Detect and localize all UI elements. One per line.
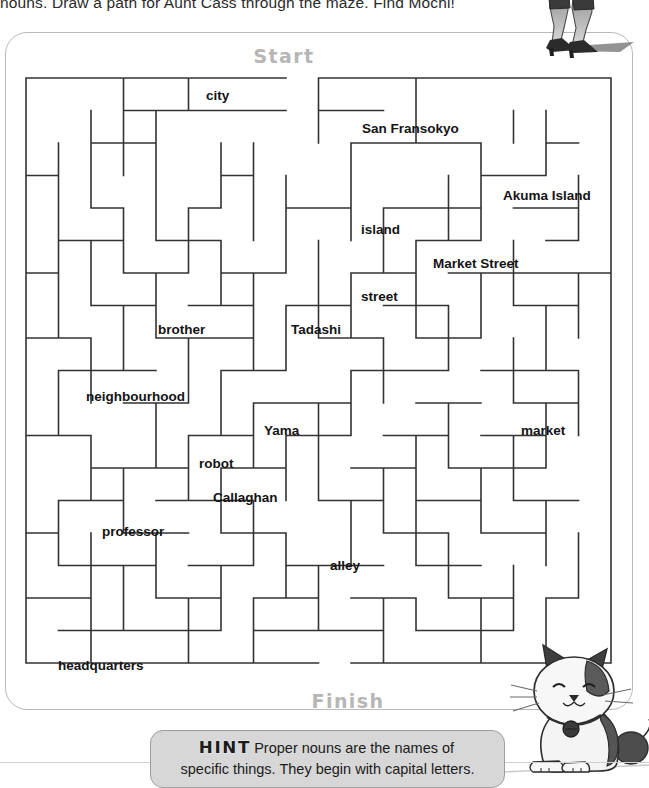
- maze-word-street: street: [361, 290, 398, 304]
- maze-finish-label: Finish: [288, 690, 408, 712]
- maze-start-label: Start: [224, 45, 344, 67]
- maze-word-yama: Yama: [264, 424, 299, 438]
- hint-content: HINTProper nouns are the names of specif…: [151, 731, 504, 780]
- maze-word-robot: robot: [199, 457, 234, 471]
- maze-word-city: city: [206, 89, 229, 103]
- hint-badge: HINT: [199, 738, 257, 759]
- maze-word-market: market: [521, 424, 565, 438]
- maze-word-professor: professor: [102, 525, 164, 539]
- maze-word-neighbourhood: neighbourhood: [86, 390, 185, 404]
- mochi-cat-icon: [503, 629, 649, 788]
- aunt-cass-legs-icon: [516, 0, 640, 60]
- hint-box: HINTProper nouns are the names of specif…: [150, 730, 505, 788]
- maze-word-callaghan: Callaghan: [213, 491, 278, 505]
- maze-word-market-street: Market Street: [433, 257, 519, 271]
- worksheet-card: [5, 32, 633, 710]
- maze-word-san-fransokyo: San Fransokyo: [362, 122, 459, 136]
- maze-word-brother: brother: [158, 323, 205, 337]
- hint-text-line-1: Proper nouns are the names of: [254, 740, 454, 756]
- maze-word-tadashi: Tadashi: [291, 323, 341, 337]
- maze-word-island: island: [361, 223, 400, 237]
- hint-text-line-2: specific things. They begin with capital…: [181, 761, 475, 777]
- maze-word-alley: alley: [330, 559, 360, 573]
- maze-word-akuma-island: Akuma Island: [503, 189, 591, 203]
- maze-word-headquarters: headquarters: [58, 659, 144, 673]
